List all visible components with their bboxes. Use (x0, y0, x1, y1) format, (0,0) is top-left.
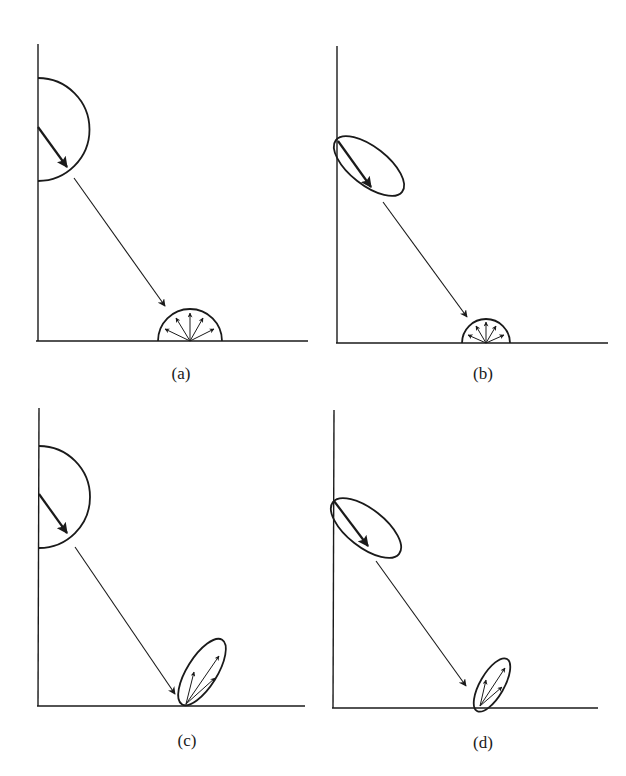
incident-arrow (338, 141, 371, 187)
reflected-rays (165, 313, 214, 341)
source-lobe-ellipse (321, 487, 411, 569)
panel-b (324, 46, 608, 343)
panel-label-d: (d) (473, 733, 493, 753)
incident-arrow (39, 494, 67, 533)
panel-a (36, 44, 308, 341)
panel-label-b: (b) (473, 364, 493, 384)
panel-d (321, 410, 598, 717)
panel-label-a: (a) (172, 364, 191, 384)
transport-arrow (383, 202, 467, 317)
reflected-rays (480, 668, 505, 706)
figure-canvas (0, 0, 626, 776)
vertical-surface (333, 410, 334, 708)
transport-arrow (75, 547, 175, 694)
reflection-lobe-ellipse (169, 632, 235, 712)
transport-arrow (74, 178, 165, 306)
source-lobe-semicircle (39, 446, 90, 548)
reflected-rays (468, 322, 504, 343)
vertical-surface (38, 408, 39, 706)
incident-arrow (38, 127, 67, 167)
panel-label-c: (c) (178, 731, 197, 751)
source-lobe-semicircle (38, 78, 90, 181)
transport-arrow (376, 561, 466, 686)
panel-c (37, 408, 305, 712)
